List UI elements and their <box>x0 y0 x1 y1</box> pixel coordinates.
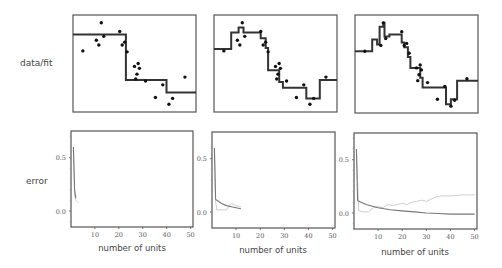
plot-frame-1 <box>73 15 196 112</box>
x-tick-label: 10 <box>91 231 99 239</box>
x-tick-label: 40 <box>446 233 454 241</box>
error-series-test-error <box>214 148 241 210</box>
data-point <box>279 67 282 70</box>
data-point <box>264 40 267 43</box>
x-axis-label-2: number of units <box>211 245 335 255</box>
data-point <box>121 43 124 46</box>
chart-canvas: 0.00.510203040500.00.510203040500.00.510… <box>0 0 502 268</box>
data-point <box>415 66 418 69</box>
data-point <box>266 50 269 53</box>
x-tick-label: 50 <box>186 231 194 239</box>
data-point <box>81 49 84 52</box>
data-point <box>420 68 423 71</box>
x-tick-label: 20 <box>115 231 123 239</box>
data-point <box>363 50 366 53</box>
error-plot-frame-1 <box>71 131 193 227</box>
data-point <box>259 30 262 33</box>
y-tick-label: 0.0 <box>197 209 207 217</box>
data-point <box>275 77 278 80</box>
x-tick-label: 30 <box>139 231 147 239</box>
y-tick-label: 0.5 <box>339 156 349 164</box>
data-point <box>135 72 138 75</box>
data-point <box>295 96 298 99</box>
x-tick-label: 30 <box>422 233 430 241</box>
data-point <box>243 35 246 38</box>
data-point <box>102 35 105 38</box>
data-point <box>222 49 225 52</box>
data-point <box>416 79 419 82</box>
x-tick-label: 20 <box>256 232 264 240</box>
x-axis-label-1: number of units <box>70 243 194 253</box>
data-point <box>417 73 420 76</box>
data-point <box>277 62 280 65</box>
data-point <box>426 81 429 84</box>
data-point <box>382 21 385 24</box>
data-point <box>400 30 403 33</box>
x-tick-label: 20 <box>398 233 406 241</box>
fit-line-2 <box>214 28 337 99</box>
data-point <box>134 77 137 80</box>
data-point <box>274 65 277 68</box>
data-point <box>324 75 327 78</box>
data-point <box>241 21 244 24</box>
y-tick-label: 0.0 <box>339 210 349 218</box>
x-axis-label-3: number of units <box>353 247 477 257</box>
data-point <box>236 39 239 42</box>
x-tick-label: 10 <box>374 233 382 241</box>
error-series-training-error <box>214 148 241 209</box>
x-tick-label: 30 <box>280 232 288 240</box>
data-point <box>384 37 387 40</box>
data-point <box>308 103 311 106</box>
data-point <box>123 40 126 43</box>
data-point <box>285 79 288 82</box>
data-point <box>138 67 141 70</box>
data-point <box>136 62 139 65</box>
data-point <box>161 83 164 86</box>
data-point <box>100 21 103 24</box>
data-point <box>171 97 174 100</box>
x-tick-label: 50 <box>328 232 336 240</box>
x-tick-label: 10 <box>232 232 240 240</box>
data-point <box>379 44 382 47</box>
data-point <box>154 96 157 99</box>
data-point <box>453 99 456 102</box>
x-tick-label: 40 <box>304 232 312 240</box>
data-point <box>302 83 305 86</box>
data-point <box>95 39 98 42</box>
data-point <box>276 72 279 75</box>
data-point <box>418 63 421 66</box>
fit-line-3 <box>355 23 478 104</box>
data-point <box>125 50 128 53</box>
error-series-test-error <box>356 149 474 212</box>
x-tick-label: 50 <box>470 233 478 241</box>
data-point <box>133 65 136 68</box>
data-point <box>118 30 121 33</box>
data-point <box>405 42 408 45</box>
plot-frame-3 <box>355 15 478 113</box>
data-point <box>449 104 452 107</box>
error-plot-frame-2 <box>212 132 335 228</box>
data-point <box>167 103 170 106</box>
data-point <box>436 98 439 101</box>
error-series-training-error <box>356 149 474 214</box>
data-point <box>407 52 410 55</box>
fit-line-1 <box>73 34 196 92</box>
data-point <box>312 97 315 100</box>
data-point <box>465 77 468 80</box>
data-point <box>97 43 100 46</box>
data-point <box>144 79 147 82</box>
y-tick-label: 0.0 <box>56 208 66 216</box>
data-point <box>262 43 265 46</box>
data-point <box>183 75 186 78</box>
x-tick-label: 40 <box>163 231 171 239</box>
y-tick-label: 0.5 <box>197 155 207 163</box>
error-series-training-error <box>73 147 75 198</box>
y-tick-label: 0.5 <box>56 154 66 162</box>
data-point <box>443 85 446 88</box>
data-point <box>238 43 241 46</box>
